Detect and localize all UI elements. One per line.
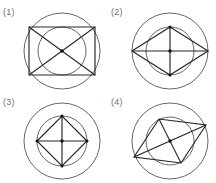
figure-label-2: (2) xyxy=(111,7,123,17)
figure-drawing-3 xyxy=(17,95,107,183)
figure-label-4: (4) xyxy=(111,97,123,107)
vertex-dot xyxy=(86,140,89,143)
vertex-dot xyxy=(61,115,64,118)
figure-label-1: (1) xyxy=(3,7,15,17)
vertex-dot xyxy=(169,74,172,77)
figure-panel-3[interactable]: (3) xyxy=(0,95,108,183)
vertex-dot xyxy=(169,26,172,29)
centre-dot-3 xyxy=(60,139,63,142)
centre-dot-1 xyxy=(60,49,63,52)
figure-drawing-2 xyxy=(125,5,215,97)
vertex-dot xyxy=(61,165,64,168)
figure-drawing-1 xyxy=(17,5,107,97)
figure-drawing-4 xyxy=(125,95,215,183)
figure-panel-4[interactable]: (4) xyxy=(108,95,216,183)
figure-panel-2[interactable]: (2) xyxy=(108,5,216,97)
figure-panel-1[interactable]: (1) xyxy=(0,5,108,97)
centre-dot-2 xyxy=(168,49,171,52)
vertex-dot xyxy=(36,140,39,143)
centre-dot-4 xyxy=(168,139,171,142)
figure-label-3: (3) xyxy=(3,97,15,107)
figure-grid: (1) (2) xyxy=(0,0,216,183)
figure-sheet: (1) (2) xyxy=(0,0,216,183)
